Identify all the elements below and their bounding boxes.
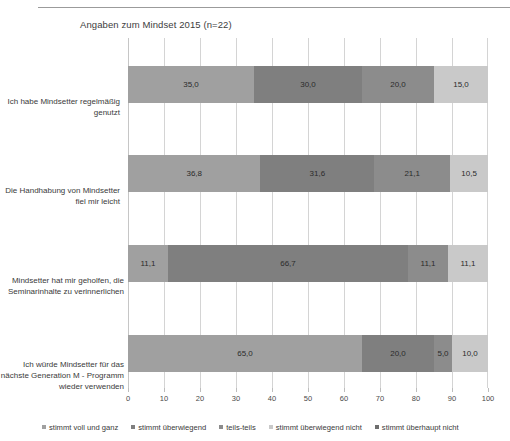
chart-legend: stimmt voll und ganzstimmt überwiegendte… (42, 420, 482, 434)
x-axis-tick-label: 10 (160, 394, 168, 403)
bar-value-label: 30,0 (300, 80, 316, 89)
legend-swatch-icon (131, 425, 135, 429)
legend-item[interactable]: stimmt voll und ganz (42, 423, 118, 432)
x-axis-tick (164, 388, 165, 392)
x-axis-tick-label: 90 (448, 394, 456, 403)
x-axis-tick (128, 388, 129, 392)
bar-value-label: 11,1 (421, 259, 436, 268)
x-axis-tick-label: 70 (376, 394, 384, 403)
bar-value-label: 5,0 (437, 349, 448, 358)
table-row: 65,020,05,010,0 (128, 335, 488, 372)
legend-swatch-icon (219, 425, 223, 429)
page-top-rule (38, 7, 510, 8)
bar-value-label: 31,6 (310, 169, 326, 178)
x-axis-tick (272, 388, 273, 392)
legend-label: teils-teils (226, 423, 256, 432)
x-axis-tick-label: 80 (412, 394, 420, 403)
bar-segment: 11,1 (448, 245, 488, 282)
bar-segment: 35,0 (128, 66, 254, 103)
legend-swatch-icon (269, 425, 273, 429)
bar-segment: 10,5 (450, 155, 488, 192)
category-label: Mindsetter hat mir geholfen, die Seminar… (0, 275, 124, 297)
bar-value-label: 65,0 (237, 349, 253, 358)
category-labels: Ich habe Mindsetter regelmäßig genutzt D… (2, 38, 124, 388)
bar-value-label: 21,1 (404, 169, 420, 178)
x-axis-tick-label: 60 (340, 394, 348, 403)
bar-segment: 10,0 (452, 335, 488, 372)
category-label: Ich habe Mindsetter regelmäßig genutzt (2, 96, 120, 118)
bar-segment: 20,0 (362, 335, 434, 372)
x-axis-tick-label: 20 (196, 394, 204, 403)
legend-item[interactable]: teils-teils (219, 423, 256, 432)
bar-segment: 31,6 (260, 155, 374, 192)
category-label: Ich würde Mindsetter für das nächste Gen… (0, 359, 124, 392)
bar-value-label: 15,0 (453, 80, 469, 89)
bar-segment: 11,1 (408, 245, 448, 282)
x-axis-tick-label: 40 (268, 394, 276, 403)
x-axis-tick (344, 388, 345, 392)
x-axis-tick (380, 388, 381, 392)
bar-segment: 30,0 (254, 66, 362, 103)
x-axis-tick (488, 388, 489, 392)
legend-swatch-icon (42, 425, 46, 429)
bar-segment: 5,0 (434, 335, 452, 372)
legend-label: stimmt überhaupt nicht (382, 423, 459, 432)
x-axis-tick (416, 388, 417, 392)
table-row: 35,030,020,015,0 (128, 66, 488, 103)
bar-segment: 21,1 (374, 155, 450, 192)
bar-segment: 66,7 (168, 245, 408, 282)
category-label: Die Handhabung von Mindsetter fiel mir l… (2, 185, 120, 207)
bar-value-label: 36,8 (186, 169, 202, 178)
stacked-bar: 35,030,020,015,0 (128, 66, 488, 103)
legend-label: stimmt voll und ganz (49, 423, 118, 432)
bar-segment: 11,1 (128, 245, 168, 282)
bar-segment: 15,0 (434, 66, 488, 103)
bar-value-label: 66,7 (280, 259, 296, 268)
table-row: 11,166,711,111,1 (128, 245, 488, 282)
bar-value-label: 35,0 (183, 80, 199, 89)
bar-rows: 35,030,020,015,0 36,831,621,110,5 11,166… (128, 38, 488, 388)
legend-item[interactable]: stimmt überhaupt nicht (375, 423, 459, 432)
bar-segment: 65,0 (128, 335, 362, 372)
bar-value-label: 20,0 (390, 349, 406, 358)
bar-value-label: 20,0 (390, 80, 406, 89)
x-axis-tick-label: 30 (232, 394, 240, 403)
stacked-bar: 36,831,621,110,5 (128, 155, 488, 192)
x-axis-tick (200, 388, 201, 392)
bar-segment: 20,0 (362, 66, 434, 103)
stacked-bar: 11,166,711,111,1 (128, 245, 488, 282)
table-row: 36,831,621,110,5 (128, 155, 488, 192)
legend-item[interactable]: stimmt überwiegend (131, 423, 206, 432)
bar-segment: 36,8 (128, 155, 260, 192)
x-axis-tick (236, 388, 237, 392)
plot-area: 35,030,020,015,0 36,831,621,110,5 11,166… (128, 38, 488, 388)
bar-value-label: 11,1 (461, 259, 476, 268)
x-axis-tick-label: 100 (482, 394, 495, 403)
legend-swatch-icon (375, 425, 379, 429)
stacked-bar: 65,020,05,010,0 (128, 335, 488, 372)
x-axis-tick (308, 388, 309, 392)
bar-value-label: 10,5 (461, 169, 477, 178)
x-axis-tick-label: 50 (304, 394, 312, 403)
x-axis-tick (452, 388, 453, 392)
bar-value-label: 11,1 (140, 259, 155, 268)
x-axis-tick-label: 0 (126, 394, 130, 403)
bar-value-label: 10,0 (462, 349, 478, 358)
chart-title: Angaben zum Mindset 2015 (n=22) (80, 19, 232, 30)
legend-item[interactable]: stimmt überwiegend nicht (269, 423, 362, 432)
legend-label: stimmt überwiegend nicht (276, 423, 362, 432)
x-axis: 0102030405060708090100 (128, 388, 488, 406)
legend-label: stimmt überwiegend (138, 423, 206, 432)
